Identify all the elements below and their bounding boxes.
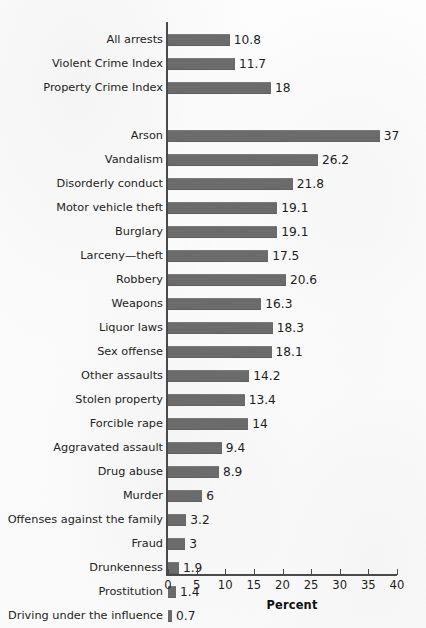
bar-row: Offenses against the family3.2 bbox=[0, 508, 426, 532]
bar bbox=[168, 514, 186, 526]
bar bbox=[168, 154, 318, 166]
category-label: Stolen property bbox=[75, 388, 163, 412]
bar-row: Disorderly conduct21.8 bbox=[0, 172, 426, 196]
category-label: Liquor laws bbox=[99, 316, 163, 340]
bar bbox=[168, 418, 248, 430]
bar-value-label: 19.1 bbox=[281, 220, 308, 244]
category-label: Motor vehicle theft bbox=[56, 196, 163, 220]
bar bbox=[168, 34, 230, 46]
bar-value-label: 18.3 bbox=[277, 316, 304, 340]
bar-chart-plot-area: All arrests10.8Violent Crime Index11.7Pr… bbox=[0, 0, 426, 628]
chart-page: All arrests10.8Violent Crime Index11.7Pr… bbox=[0, 0, 426, 628]
bar-row: Liquor laws18.3 bbox=[0, 316, 426, 340]
category-label: Forcible rape bbox=[90, 412, 163, 436]
category-label: Aggravated assault bbox=[53, 436, 163, 460]
bar bbox=[168, 538, 185, 550]
bar bbox=[168, 442, 222, 454]
bar-row: Drunkenness1.9 bbox=[0, 556, 426, 580]
bar-row: All arrests10.8 bbox=[0, 28, 426, 52]
category-label: Larceny—theft bbox=[80, 244, 163, 268]
bar-row: Violent Crime Index11.7 bbox=[0, 52, 426, 76]
x-axis-title-text: Percent bbox=[266, 598, 317, 612]
bar-row: Sex offense18.1 bbox=[0, 340, 426, 364]
bar-value-label: 21.8 bbox=[297, 172, 324, 196]
bar bbox=[168, 466, 219, 478]
bar-value-label: 18 bbox=[275, 76, 291, 100]
bar-row: Stolen property13.4 bbox=[0, 388, 426, 412]
x-axis-tick bbox=[340, 569, 341, 575]
bar-value-label: 14.2 bbox=[253, 364, 280, 388]
x-axis-tick bbox=[311, 569, 312, 575]
bar bbox=[168, 226, 277, 238]
bar-value-label: 37 bbox=[384, 124, 400, 148]
category-label: Sex offense bbox=[97, 340, 163, 364]
category-label: Drug abuse bbox=[98, 460, 163, 484]
x-axis-tick-label: 20 bbox=[268, 578, 298, 592]
category-label: Drunkenness bbox=[89, 556, 163, 580]
category-label: Other assaults bbox=[81, 364, 163, 388]
category-label: Disorderly conduct bbox=[56, 172, 163, 196]
bar-value-label: 17.5 bbox=[272, 244, 299, 268]
x-axis-title: Percent bbox=[0, 598, 426, 612]
bar-row: Motor vehicle theft19.1 bbox=[0, 196, 426, 220]
bar-row: Weapons16.3 bbox=[0, 292, 426, 316]
bar-row: Arson37 bbox=[0, 124, 426, 148]
category-label: Weapons bbox=[111, 292, 163, 316]
x-axis-tick-label: 40 bbox=[382, 578, 412, 592]
x-axis-tick bbox=[397, 569, 398, 575]
bar-row: Murder6 bbox=[0, 484, 426, 508]
category-label: Murder bbox=[123, 484, 163, 508]
bar bbox=[168, 82, 271, 94]
category-label: Burglary bbox=[115, 220, 163, 244]
x-axis-tick-label: 30 bbox=[325, 578, 355, 592]
x-axis-tick bbox=[197, 569, 198, 575]
bar-value-label: 3 bbox=[189, 532, 197, 556]
bar-value-label: 16.3 bbox=[265, 292, 292, 316]
bar-row: Robbery20.6 bbox=[0, 268, 426, 292]
bar-row: Forcible rape14 bbox=[0, 412, 426, 436]
bar-value-label: 3.2 bbox=[190, 508, 209, 532]
x-axis-tick bbox=[254, 569, 255, 575]
bar-value-label: 10.8 bbox=[234, 28, 261, 52]
bar-row: Aggravated assault9.4 bbox=[0, 436, 426, 460]
bar bbox=[168, 490, 202, 502]
bar bbox=[168, 346, 272, 358]
bar-value-label: 19.1 bbox=[281, 196, 308, 220]
x-axis-tick bbox=[283, 569, 284, 575]
bar-row: Other assaults14.2 bbox=[0, 364, 426, 388]
category-label: Robbery bbox=[116, 268, 163, 292]
category-label: Property Crime Index bbox=[43, 76, 163, 100]
bar-row: Property Crime Index18 bbox=[0, 76, 426, 100]
bar-value-label: 1.9 bbox=[183, 556, 202, 580]
bar bbox=[168, 298, 261, 310]
bar-value-label: 13.4 bbox=[249, 388, 276, 412]
bar-value-label: 9.4 bbox=[226, 436, 245, 460]
bar bbox=[168, 250, 268, 262]
bar bbox=[168, 58, 235, 70]
x-axis-tick-label: 25 bbox=[296, 578, 326, 592]
bar bbox=[168, 394, 245, 406]
bar-row: Burglary19.1 bbox=[0, 220, 426, 244]
category-label: Fraud bbox=[131, 532, 163, 556]
bar-row: Larceny—theft17.5 bbox=[0, 244, 426, 268]
bar bbox=[168, 370, 249, 382]
bar-value-label: 14 bbox=[252, 412, 268, 436]
x-axis-tick-label: 0 bbox=[153, 578, 183, 592]
x-axis-tick-label: 15 bbox=[239, 578, 269, 592]
x-axis-tick-label: 10 bbox=[210, 578, 240, 592]
bar bbox=[168, 274, 286, 286]
category-label: Arson bbox=[131, 124, 163, 148]
bar bbox=[168, 322, 273, 334]
category-label: Vandalism bbox=[105, 148, 163, 172]
category-label: Violent Crime Index bbox=[52, 52, 163, 76]
bar-value-label: 11.7 bbox=[239, 52, 266, 76]
bar bbox=[168, 130, 380, 142]
x-axis-tick bbox=[168, 569, 169, 575]
category-label: All arrests bbox=[106, 28, 163, 52]
bar-value-label: 8.9 bbox=[223, 460, 242, 484]
bar-row: Vandalism26.2 bbox=[0, 148, 426, 172]
bar-value-label: 6 bbox=[206, 484, 214, 508]
bar-value-label: 18.1 bbox=[276, 340, 303, 364]
category-label: Offenses against the family bbox=[8, 508, 163, 532]
x-axis-tick bbox=[368, 569, 369, 575]
